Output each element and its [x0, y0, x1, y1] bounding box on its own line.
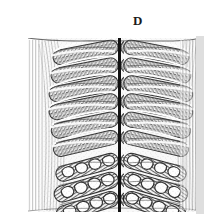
histology-micrograph	[0, 0, 204, 222]
specimen-left-half	[38, 35, 120, 222]
right-edge-band	[196, 36, 204, 214]
figure-panel: D	[0, 0, 204, 222]
midline-septum	[118, 38, 121, 212]
panel-label: D	[0, 14, 204, 27]
